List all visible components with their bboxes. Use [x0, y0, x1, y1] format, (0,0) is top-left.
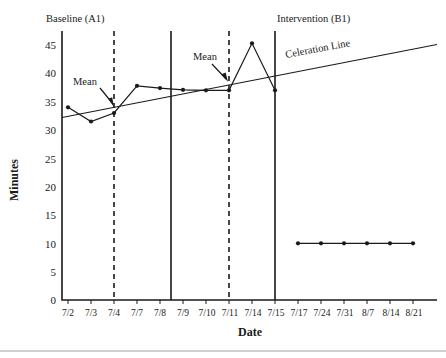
- intervention-phase-header: Intervention (B1): [277, 13, 351, 25]
- celeration-line-label: Celeration Line: [284, 37, 351, 60]
- y-tick-label: 25: [45, 153, 57, 165]
- x-axis-title: Date: [238, 325, 263, 339]
- mean-annotation-left-arrowhead: [108, 97, 114, 107]
- x-tick-label: 8/7: [362, 308, 374, 318]
- baseline-phase-header: Baseline (A1): [46, 13, 105, 25]
- y-tick-label: 10: [45, 238, 57, 250]
- y-tick-label: 45: [45, 39, 57, 51]
- x-tick-label: 7/8: [154, 308, 166, 318]
- y-tick-label: 35: [45, 96, 57, 108]
- y-tick-label: 30: [45, 124, 57, 136]
- mean-annotation-right-label: Mean: [193, 51, 218, 62]
- mean-annotation-right-arrowhead: [222, 72, 228, 82]
- x-tick-label: 8/14: [383, 308, 400, 318]
- y-axis-title: Minutes: [7, 159, 21, 201]
- x-tick-label: 8/21: [406, 308, 423, 318]
- line-chart: Baseline (A1) Intervention (B1) Minutes …: [0, 0, 446, 358]
- y-tick-label: 15: [45, 209, 57, 221]
- x-tick-label: 7/11: [222, 308, 239, 318]
- x-tick-label: 7/14: [245, 308, 262, 318]
- x-tick-label: 7/9: [177, 308, 189, 318]
- chart-figure: Baseline (A1) Intervention (B1) Minutes …: [0, 0, 446, 358]
- x-tick-label: 7/15: [268, 308, 285, 318]
- x-tick-label: 7/31: [337, 308, 354, 318]
- x-tick-label: 7/7: [131, 308, 143, 318]
- x-tick-label: 7/2: [62, 308, 74, 318]
- x-tick-label: 7/4: [108, 308, 120, 318]
- y-tick-label: 5: [51, 266, 57, 278]
- celeration-line: [62, 45, 437, 118]
- axis-lines: [62, 31, 437, 300]
- x-tick-label: 7/17: [291, 308, 308, 318]
- y-tick-label: 40: [45, 67, 57, 79]
- x-tick-label: 7/3: [85, 308, 97, 318]
- mean-annotation-left-label: Mean: [73, 76, 98, 87]
- y-tick-label: 0: [51, 294, 57, 306]
- y-tick-label: 20: [45, 181, 57, 193]
- x-tick-label: 7/24: [314, 308, 331, 318]
- x-tick-label: 7/10: [199, 308, 216, 318]
